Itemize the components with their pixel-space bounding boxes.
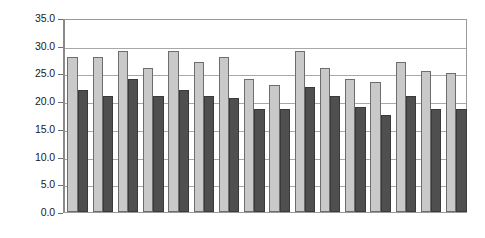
y-axis: 0.05.010.015.020.025.030.035.0 xyxy=(0,19,63,213)
bar-group xyxy=(396,20,416,212)
bar-series-a xyxy=(396,62,406,212)
bar-series-a xyxy=(67,57,77,212)
bar-group xyxy=(345,20,365,212)
bar-group xyxy=(118,20,138,212)
bar-series-a xyxy=(194,62,204,212)
bar-series-a xyxy=(219,57,229,212)
plot-area xyxy=(63,19,467,213)
bar-series-a xyxy=(320,68,330,212)
bar-series-a xyxy=(295,51,305,212)
bar-series-a xyxy=(269,85,279,212)
y-axis-tick-label: 15.0 xyxy=(35,123,55,136)
bars-layer xyxy=(65,20,466,212)
y-axis-tick-label: 0.0 xyxy=(41,206,55,219)
bar-series-b xyxy=(179,90,189,212)
bar-series-b xyxy=(254,109,264,212)
y-axis-tick-label: 10.0 xyxy=(35,151,55,164)
bar-group xyxy=(320,20,340,212)
bar-series-b xyxy=(355,107,365,212)
bar-series-b xyxy=(78,90,88,212)
bar-group xyxy=(194,20,214,212)
y-axis-tick-label: 35.0 xyxy=(35,12,55,25)
bar-group xyxy=(143,20,163,212)
bar-series-a xyxy=(244,79,254,212)
y-axis-tick-label: 5.0 xyxy=(41,178,55,191)
bar-series-b xyxy=(280,109,290,212)
bar-series-b xyxy=(406,96,416,212)
y-axis-tick-label: 30.0 xyxy=(35,40,55,53)
bar-series-a xyxy=(143,68,153,212)
bar-series-b xyxy=(305,87,315,212)
bar-series-a xyxy=(345,79,355,212)
bar-series-b xyxy=(456,109,466,212)
bar-series-a xyxy=(168,51,178,212)
bar-series-b xyxy=(153,96,163,212)
bar-series-b xyxy=(431,109,441,212)
bar-group xyxy=(168,20,188,212)
y-axis-tick-mark xyxy=(58,213,63,214)
bar-series-a xyxy=(446,73,456,212)
bar-series-b xyxy=(204,96,214,212)
bar-group xyxy=(219,20,239,212)
bar-series-b xyxy=(128,79,138,212)
bar-chart: 0.05.010.015.020.025.030.035.0 xyxy=(0,0,485,238)
bar-series-b xyxy=(103,96,113,212)
bar-group xyxy=(295,20,315,212)
bar-group xyxy=(370,20,390,212)
y-axis-tick-label: 20.0 xyxy=(35,95,55,108)
bar-series-a xyxy=(118,51,128,212)
bar-group xyxy=(446,20,466,212)
bar-series-a xyxy=(370,82,380,212)
bar-series-a xyxy=(421,71,431,212)
bar-group xyxy=(421,20,441,212)
y-axis-tick-label: 25.0 xyxy=(35,67,55,80)
bar-group xyxy=(269,20,289,212)
bar-series-b xyxy=(229,98,239,212)
bar-group xyxy=(93,20,113,212)
bar-group xyxy=(67,20,87,212)
bar-series-a xyxy=(93,57,103,212)
bar-group xyxy=(244,20,264,212)
bar-series-b xyxy=(381,115,391,212)
bar-series-b xyxy=(330,96,340,212)
